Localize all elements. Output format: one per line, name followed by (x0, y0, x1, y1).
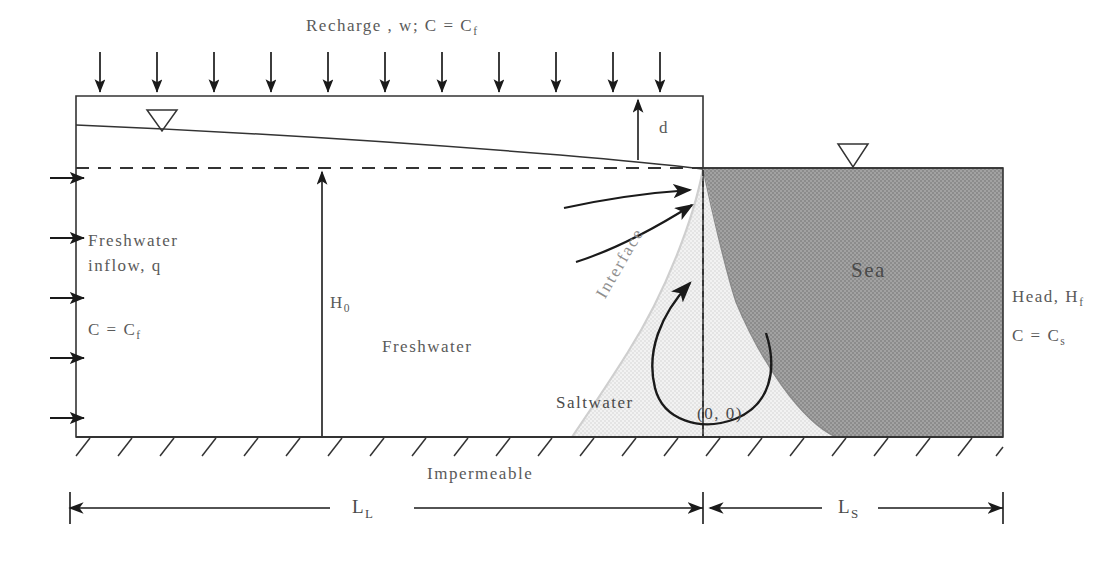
origin-coordinate-label: (0, 0) (697, 404, 743, 424)
depth-d-label: d (659, 118, 669, 138)
water-table-line (76, 125, 703, 169)
diagram-canvas: Recharge , w; C = Cf d H0 Freshwater inf… (0, 0, 1104, 561)
freshwater-inflow-arrow-group (50, 178, 84, 418)
impermeable-hatch-icon-group (76, 437, 1003, 456)
recharge-arrow-group (100, 52, 660, 92)
recharge-label: Recharge , w; C = Cf (306, 16, 477, 38)
length-land-label: LL (352, 496, 373, 522)
seawater-concentration-label: C = Cs (1012, 326, 1065, 348)
head-hf-label: Head, Hf (1012, 287, 1083, 309)
freshwater-zone-label: Freshwater (382, 337, 473, 357)
freshwater-inflow-label-line1: Freshwater (88, 231, 179, 251)
head-h0-label: H0 (330, 293, 350, 315)
freshwater-inflow-label-line2: inflow, q (88, 256, 162, 276)
saltwater-zone-label: Saltwater (556, 393, 634, 413)
water-table-triangle-icon-sea (838, 144, 868, 167)
sea-zone-label: Sea (851, 258, 886, 283)
length-sea-label: LS (838, 496, 858, 522)
length-land-dimension (70, 492, 703, 524)
cross-section-svg (0, 0, 1104, 561)
freshwater-concentration-label: C = Cf (88, 320, 140, 342)
impermeable-label: Impermeable (427, 464, 533, 484)
